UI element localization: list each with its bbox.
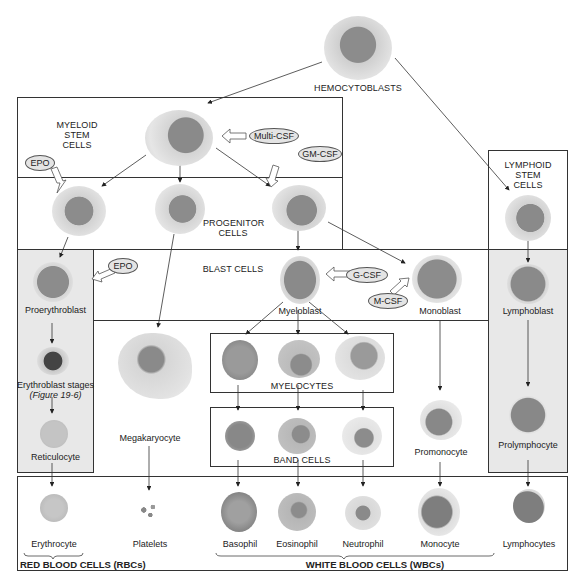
neutrophil-cell: [345, 496, 381, 530]
epo-factor-top: EPO: [25, 155, 55, 171]
erythroblast-ref-label: (Figure 19-6): [17, 390, 94, 401]
myeloid-stem-cell: [145, 110, 213, 166]
megakaryocyte-cell: [118, 333, 192, 399]
wbc-group-label: WHITE BLOOD CELLS (WBCs): [290, 559, 460, 570]
hemocytoblasts-label: HEMOCYTOBLASTS: [312, 83, 404, 94]
erythrocyte-cell: [40, 494, 68, 522]
neutrophil-band-cell: [342, 417, 382, 455]
eosinophil-myelocyte-cell: [278, 340, 320, 378]
monoblast-cell: [412, 255, 462, 303]
hemocytoblast-cell: [324, 16, 392, 80]
erythrocyte-label: Erythrocyte: [22, 539, 86, 550]
reticulocyte-label: Reticulocyte: [17, 452, 94, 463]
eosinophil-label: Eosinophil: [267, 539, 327, 550]
promonocyte-cell: [420, 400, 462, 440]
platelets-cell: [136, 500, 162, 520]
lymphocytes-label: Lymphocytes: [497, 539, 561, 550]
myeloblast-label: Myeloblast: [270, 306, 330, 317]
monocyte-label: Monocyte: [410, 539, 470, 550]
erythroblast-cell: [37, 347, 69, 375]
myeloblast-cell: [280, 256, 320, 304]
proerythroblast-cell: [33, 262, 73, 302]
myelocytes-label: MYELOCYTES: [262, 381, 342, 392]
prolymphocyte-label: Prolymphocyte: [490, 440, 566, 451]
eosinophil-band-cell: [278, 418, 316, 454]
promonocyte-label: Promonocyte: [405, 447, 477, 458]
basophil-band-cell: [225, 421, 255, 451]
monoblast-label: Monoblast: [410, 306, 470, 317]
reticulocyte-cell: [40, 420, 68, 448]
epo-factor-blast: EPO: [108, 258, 138, 274]
megakaryocyte-progenitor-cell: [155, 184, 205, 234]
basophil-myelocyte-cell: [222, 340, 258, 380]
band-cells-label: BAND CELLS: [262, 455, 342, 466]
progenitor-label-2: CELLS: [203, 228, 263, 239]
lymphoblast-label: Lymphoblast: [490, 306, 566, 317]
neutrophil-myelocyte-cell: [335, 336, 385, 380]
lymphoid-stem-label-3: CELLS: [498, 180, 558, 191]
proerythroblast-label: Proerythroblast: [17, 305, 94, 316]
g-csf-factor: G-CSF: [346, 267, 388, 283]
multi-csf-factor: Multi-CSF: [249, 128, 299, 144]
megakaryocyte-label: Megakaryocyte: [110, 433, 190, 444]
gm-csf-factor: GM-CSF: [298, 146, 342, 162]
platelets-label: Platelets: [120, 539, 180, 550]
rbc-group-label: RED BLOOD CELLS (RBCs): [20, 559, 146, 570]
lymphoblast-cell: [507, 264, 549, 304]
neutrophil-label: Neutrophil: [333, 539, 393, 550]
lymphocyte-cell: [513, 489, 545, 523]
lymphoid-stem-cell: [505, 195, 551, 241]
erythroid-progenitor-cell: [52, 186, 106, 236]
m-csf-factor: M-CSF: [368, 293, 408, 309]
basophil-cell: [221, 492, 257, 532]
basophil-label: Basophil: [210, 539, 270, 550]
monocyte-cell: [418, 488, 460, 536]
blast-cells-label: BLAST CELLS: [198, 264, 268, 275]
prolymphocyte-cell: [509, 396, 547, 434]
gm-progenitor-cell: [272, 185, 326, 231]
eosinophil-cell: [278, 493, 316, 531]
myeloid-stem-label-3: CELLS: [52, 140, 102, 151]
